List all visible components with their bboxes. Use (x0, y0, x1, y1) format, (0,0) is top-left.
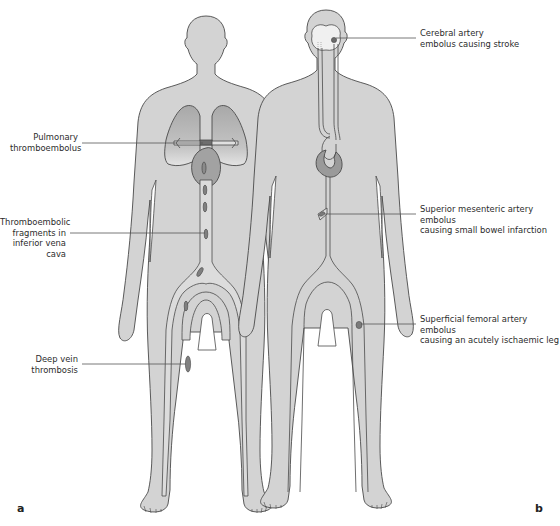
label-ivc-fragments: Thromboembolic fragments in inferior ven… (0, 217, 66, 259)
label-deep-vein-thrombosis: Deep vein thrombosis (10, 354, 78, 375)
femoral-embolus (356, 321, 362, 328)
cerebral-embolus (331, 37, 336, 42)
dvt-clot (185, 356, 190, 372)
pulmonary-clot (200, 140, 212, 145)
brain (312, 25, 341, 51)
label-mesenteric-embolus: Superior mesenteric artery embolus causi… (420, 204, 560, 236)
panel-letter-a: a (17, 502, 24, 515)
label-cerebral-artery-embolus: Cerebral artery embolus causing stroke (420, 28, 560, 49)
label-pulmonary-thromboembolus: Pulmonary thromboembolus (10, 132, 78, 153)
label-femoral-embolus: Superficial femoral artery embolus causi… (420, 314, 560, 346)
anatomy-figures (0, 0, 560, 526)
panel-letter-b: b (535, 502, 543, 515)
